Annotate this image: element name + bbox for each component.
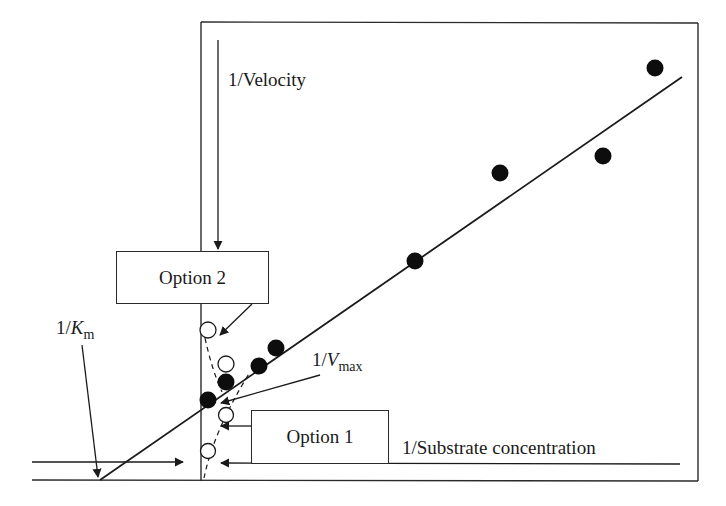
filled-point <box>268 340 285 357</box>
filled-point <box>595 148 612 165</box>
vmax-label-sub: max <box>338 359 362 374</box>
km-label-prefix: 1/ <box>56 317 71 338</box>
option2-label: Option 2 <box>159 267 226 289</box>
option2-box: Option 2 <box>116 251 269 304</box>
filled-point <box>647 60 664 77</box>
option1-label: Option 1 <box>286 426 353 448</box>
open-point <box>219 408 234 423</box>
filled-points <box>200 60 664 409</box>
vmax-label-prefix: 1/ <box>312 349 327 370</box>
filled-point <box>200 392 217 409</box>
open-point <box>201 444 216 459</box>
option2-arrow <box>220 304 252 335</box>
km-label-var: K <box>71 317 84 338</box>
vmax-arrow <box>221 375 320 403</box>
option1-box: Option 1 <box>251 410 389 464</box>
y-axis-label: 1/Velocity <box>228 70 306 89</box>
filled-point <box>251 358 268 375</box>
km-label: 1/Km <box>56 318 94 337</box>
km-arrow <box>82 345 98 477</box>
x-axis-label: 1/Substrate concentration <box>402 438 596 457</box>
filled-point <box>492 165 509 182</box>
vmax-label: 1/Vmax <box>312 350 363 369</box>
vmax-label-var: V <box>327 349 339 370</box>
x-axis <box>32 480 698 481</box>
open-point <box>218 356 234 372</box>
filled-point <box>218 374 235 391</box>
filled-point <box>407 253 424 270</box>
open-point <box>200 322 216 338</box>
km-label-sub: m <box>83 327 94 342</box>
